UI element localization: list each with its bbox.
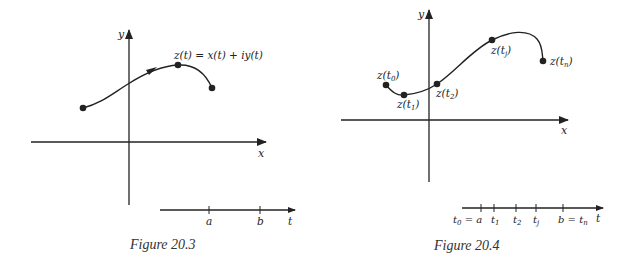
- x-axis-label: x: [561, 124, 568, 137]
- label-z-tn: z(tn): [549, 55, 573, 69]
- figure-caption: Figure 20.4: [433, 238, 500, 253]
- tick-label-a: a: [206, 215, 212, 227]
- figure-20-3: y x z(t) = x(t) + iy(t) a b t Figure 20.…: [31, 28, 295, 252]
- point-z-t0: [383, 82, 390, 89]
- x-axis-label: x: [258, 147, 265, 160]
- tick-label-tj: tj: [533, 214, 540, 227]
- tick-label-tn: b = tn: [558, 214, 588, 227]
- partitioned-curve: [386, 32, 543, 95]
- tick-label-t1: t1: [491, 214, 500, 227]
- label-z-t0: z(t0): [376, 69, 399, 83]
- y-axis-label: y: [117, 28, 125, 41]
- figure-caption: Figure 20.3: [129, 237, 196, 252]
- figure-20-4: y x z(t0) z(t1) z(t2) z(tj) z(tn) t0 = a…: [341, 8, 603, 253]
- t-axis-label: t: [596, 212, 601, 224]
- y-axis-label: y: [417, 8, 425, 21]
- point-z-tn: [540, 58, 547, 65]
- t-axis-label: t: [288, 215, 293, 227]
- tick-label-b: b: [257, 215, 264, 227]
- tick-label-t0: t0 = a: [453, 214, 482, 227]
- figures-canvas: y x z(t) = x(t) + iy(t) a b t Figure 20.…: [0, 0, 633, 258]
- label-z-tj: z(tj): [490, 44, 511, 58]
- curve-mid-point: [175, 62, 182, 69]
- curve-start-point: [80, 105, 87, 112]
- tick-label-t2: t2: [513, 214, 522, 227]
- point-z-tj: [489, 37, 496, 44]
- label-z-t2: z(t2): [435, 87, 458, 101]
- label-z-t1: z(t1): [396, 98, 419, 112]
- curve-end-point: [209, 85, 216, 92]
- curve-label: z(t) = x(t) + iy(t): [173, 49, 263, 61]
